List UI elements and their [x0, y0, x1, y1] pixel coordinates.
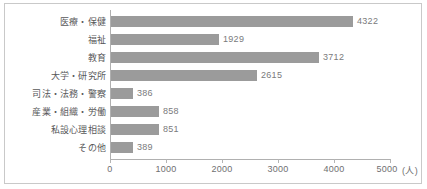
category-label: 教育 [88, 49, 106, 67]
x-tick-mark-1000 [166, 159, 167, 163]
bar-row: 教育 3712 [0, 49, 427, 67]
x-tick-label: 0 [107, 164, 112, 174]
x-axis-line [110, 159, 390, 160]
x-tick-mark-0 [110, 159, 111, 163]
category-label: 大学・研究所 [51, 67, 106, 85]
bar-row: 福祉 1929 [0, 31, 427, 49]
value-label: 851 [163, 122, 179, 137]
bar [111, 142, 133, 153]
value-label: 2615 [261, 68, 282, 83]
plot-area: 医療・保健 4322 福祉 1929 教育 3712 大学・研究所 2615 司… [0, 0, 427, 189]
category-label: 福祉 [88, 31, 106, 49]
bar [111, 34, 219, 45]
category-label: 私設心理相談 [51, 121, 106, 139]
bar-row: 私設心理相談 851 [0, 121, 427, 139]
bar [111, 52, 319, 63]
category-label: その他 [78, 139, 106, 157]
value-label: 389 [137, 140, 153, 155]
category-label: 医療・保健 [60, 13, 106, 31]
value-label: 3712 [323, 50, 344, 65]
x-tick-mark-3000 [278, 159, 279, 163]
bar [111, 88, 133, 99]
x-tick-label: 2000 [211, 164, 232, 174]
x-tick-mark-5000 [390, 159, 391, 163]
bar [111, 106, 159, 117]
x-tick-label: 1000 [155, 164, 176, 174]
bar-row: 大学・研究所 2615 [0, 67, 427, 85]
bar-row: 産業・組織・労働 858 [0, 103, 427, 121]
x-tick-label: 3000 [267, 164, 288, 174]
bar-row: 司法・法務・警察 386 [0, 85, 427, 103]
x-tick-label: 4000 [323, 164, 344, 174]
x-tick-mark-4000 [334, 159, 335, 163]
bar-row: 医療・保健 4322 [0, 13, 427, 31]
category-label: 司法・法務・警察 [32, 85, 106, 103]
category-label: 産業・組織・労働 [32, 103, 106, 121]
bar [111, 70, 257, 81]
value-label: 4322 [357, 14, 378, 29]
x-tick-mark-2000 [222, 159, 223, 163]
bar-chart-figure: 医療・保健 4322 福祉 1929 教育 3712 大学・研究所 2615 司… [0, 0, 427, 189]
value-label: 386 [137, 86, 153, 101]
value-label: 858 [163, 104, 179, 119]
bar [111, 16, 353, 27]
x-axis-unit-label: (人) [402, 164, 418, 177]
value-label: 1929 [223, 32, 244, 47]
bar-row: その他 389 [0, 139, 427, 157]
x-tick-label: 5000 [376, 164, 397, 174]
bar [111, 124, 159, 135]
